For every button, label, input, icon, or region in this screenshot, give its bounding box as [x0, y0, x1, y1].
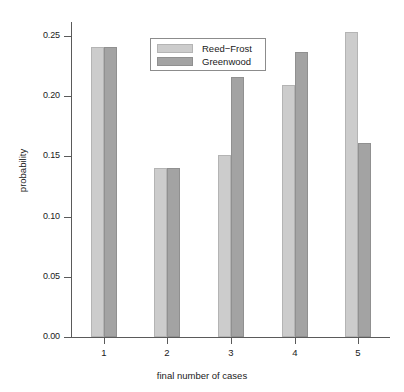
legend-swatch-icon	[157, 57, 193, 66]
x-tick-label: 2	[152, 347, 182, 358]
y-tick-mark	[64, 36, 71, 37]
y-tick-label: 0.25	[20, 30, 60, 40]
legend-swatch-icon	[157, 44, 193, 53]
x-axis-title: final number of cases	[0, 370, 404, 381]
y-tick-label: 0.00	[20, 331, 60, 341]
y-tick-mark	[64, 217, 71, 218]
x-tick-mark	[358, 338, 359, 344]
legend-item-reed-frost: Reed−Frost	[157, 43, 252, 54]
bar	[295, 52, 308, 337]
bar	[282, 85, 295, 337]
bar	[218, 155, 231, 337]
y-tick-label: 0.20	[20, 90, 60, 100]
bar	[104, 47, 117, 337]
bar	[345, 32, 358, 337]
x-tick-label: 4	[280, 347, 310, 358]
bar	[231, 77, 244, 337]
x-tick-label: 1	[89, 347, 119, 358]
x-tick-mark	[231, 338, 232, 344]
y-tick-label: 0.10	[20, 211, 60, 221]
y-axis-title: probability	[17, 131, 28, 211]
legend-label: Reed−Frost	[202, 44, 252, 54]
bar	[154, 168, 167, 337]
y-tick-mark	[64, 337, 71, 338]
bar	[91, 47, 104, 337]
x-tick-mark	[104, 338, 105, 344]
y-tick-mark	[64, 96, 71, 97]
x-tick-mark	[295, 338, 296, 344]
x-tick-mark	[167, 338, 168, 344]
legend: Reed−Frost Greenwood	[150, 38, 266, 71]
x-tick-label: 3	[216, 347, 246, 358]
x-tick-label: 5	[343, 347, 373, 358]
y-tick-label: 0.05	[20, 271, 60, 281]
legend-label: Greenwood	[202, 57, 251, 67]
bar-chart: 0.000.050.100.150.200.25 12345 probabili…	[0, 0, 404, 392]
y-tick-mark	[64, 156, 71, 157]
legend-item-greenwood: Greenwood	[157, 56, 251, 67]
y-tick-mark	[64, 277, 71, 278]
bar	[358, 143, 371, 337]
bar	[167, 168, 180, 337]
